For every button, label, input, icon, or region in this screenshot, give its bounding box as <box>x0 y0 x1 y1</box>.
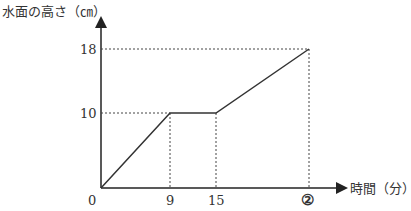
y-tick-18: 18 <box>80 43 97 56</box>
x-tick-15: 15 <box>208 194 225 207</box>
x-tick-0: 0 <box>88 194 96 207</box>
x-tick-9: 9 <box>166 194 174 207</box>
y-tick-10: 10 <box>80 107 97 120</box>
x-axis-label: 時間（分） <box>350 182 411 195</box>
data-line <box>101 49 309 188</box>
y-axis-label: 水面の高さ（㎝） <box>2 5 106 18</box>
x-tick-unknown: ② <box>301 193 314 208</box>
